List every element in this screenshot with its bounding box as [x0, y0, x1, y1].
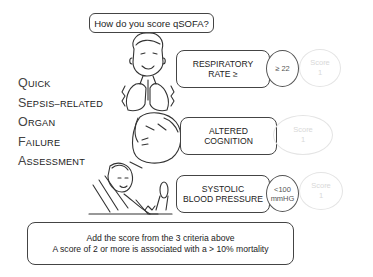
criterion-label: ALTERED: [209, 126, 248, 137]
criterion-label: RESPIRATORY: [193, 59, 254, 70]
qsofa-acronym: QUICK SEPSIS–RELATED ORGAN FAILURE ASSES…: [18, 74, 103, 172]
acronym-line-quick: QUICK: [18, 74, 103, 94]
threshold-unit: mmHG: [271, 194, 295, 203]
score-respiratory: Score 1: [299, 49, 341, 87]
criterion-respiratory-rate: RESPIRATORY RATE ≥: [176, 50, 270, 88]
acronym-line-failure: FAILURE: [18, 133, 103, 153]
criterion-label: BLOOD PRESSURE: [183, 194, 263, 205]
criterion-label: COGNITION: [204, 136, 253, 147]
score-label: Score: [311, 181, 331, 191]
patient-confused-icon: [130, 113, 181, 168]
threshold-value: ≥ 22: [275, 64, 290, 73]
score-label: Score: [293, 125, 313, 135]
score-value: 1: [301, 135, 305, 145]
criterion-systolic-bp: SYSTOLIC BLOOD PRESSURE: [176, 175, 270, 213]
score-label: Score: [310, 58, 330, 68]
patient-breathing-icon: [122, 33, 174, 111]
criterion-altered-cognition: ALTERED COGNITION: [180, 117, 277, 155]
score-value: 1: [319, 191, 323, 201]
score-systolic: Score 1: [299, 172, 343, 210]
score-cognition: Score 1: [273, 115, 333, 155]
criterion-label: RATE ≥: [208, 69, 237, 80]
criterion-label: SYSTOLIC: [202, 184, 244, 195]
threshold-respiratory: ≥ 22: [266, 50, 299, 87]
summary-line-1: Add the score from the 3 criteria above: [28, 233, 293, 244]
threshold-value: <100: [274, 185, 291, 194]
summary-box: Add the score from the 3 criteria above …: [27, 222, 294, 265]
acronym-line-organ: ORGAN: [18, 113, 103, 133]
score-value: 1: [318, 68, 322, 78]
acronym-line-sepsis: SEPSIS–RELATED: [18, 94, 103, 114]
summary-line-2: A score of 2 or more is associated with …: [28, 244, 293, 255]
page-title: How do you score qSOFA?: [89, 13, 214, 33]
acronym-line-assessment: ASSESSMENT: [18, 152, 103, 172]
threshold-systolic: <100 mmHG: [266, 175, 299, 212]
